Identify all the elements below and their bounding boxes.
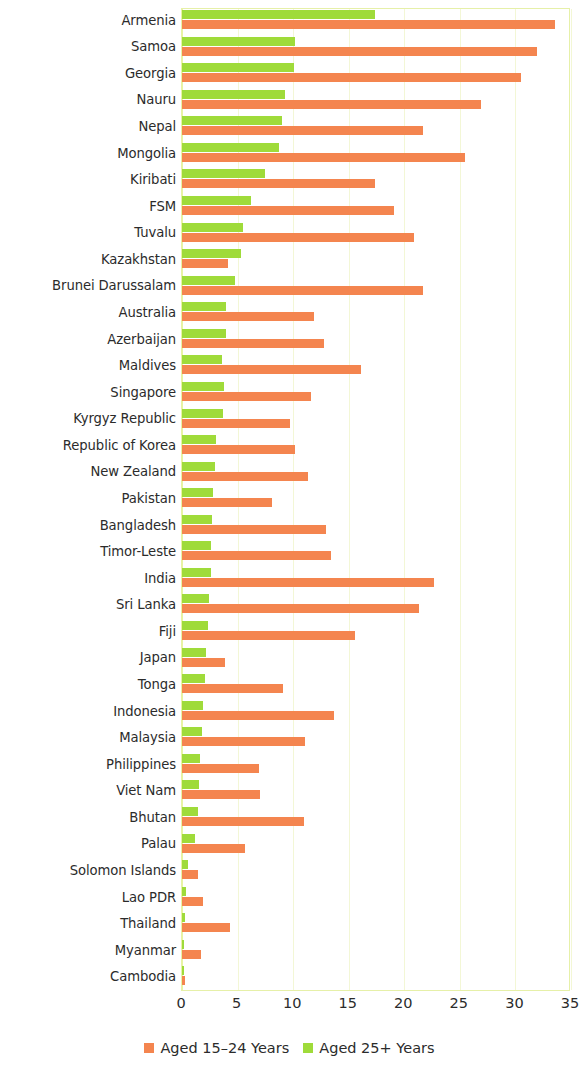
category-label: Tuvalu [0, 226, 176, 240]
bar-aged-15-24 [182, 259, 228, 268]
bar-aged-15-24 [182, 126, 423, 135]
bar-row [182, 142, 569, 169]
bar-aged-25-plus [182, 276, 235, 285]
bar-row [182, 833, 569, 860]
bar-aged-15-24 [182, 684, 283, 693]
bar-row [182, 912, 569, 939]
category-label: Viet Nam [0, 784, 176, 798]
bar-aged-25-plus [182, 780, 199, 789]
category-label: Cambodia [0, 970, 176, 984]
category-label: Maldives [0, 359, 176, 373]
bar-aged-25-plus [182, 674, 205, 683]
bar-aged-15-24 [182, 658, 225, 667]
bar-aged-25-plus [182, 966, 184, 975]
bar-aged-25-plus [182, 382, 224, 391]
bar-aged-15-24 [182, 817, 304, 826]
bar-aged-25-plus [182, 860, 188, 869]
bar-aged-15-24 [182, 286, 423, 295]
bar-row [182, 9, 569, 36]
bar-aged-15-24 [182, 153, 465, 162]
legend-label-aged-15-24: Aged 15–24 Years [160, 1040, 289, 1056]
x-tick-label-20: 20 [394, 995, 412, 1011]
bar-aged-15-24 [182, 711, 334, 720]
category-label: Lao PDR [0, 891, 176, 905]
category-label: Japan [0, 651, 176, 665]
category-label: Georgia [0, 67, 176, 81]
bar-aged-25-plus [182, 754, 200, 763]
bar-aged-15-24 [182, 870, 198, 879]
bar-aged-15-24 [182, 923, 230, 932]
category-label: Nepal [0, 120, 176, 134]
bar-row [182, 461, 569, 488]
bar-row [182, 753, 569, 780]
bar-row [182, 62, 569, 89]
category-label: Pakistan [0, 492, 176, 506]
bar-aged-25-plus [182, 727, 202, 736]
category-label: Tonga [0, 678, 176, 692]
bar-aged-15-24 [182, 100, 481, 109]
bar-aged-15-24 [182, 472, 308, 481]
category-label: Philippines [0, 758, 176, 772]
bar-aged-15-24 [182, 445, 295, 454]
category-label: Thailand [0, 917, 176, 931]
bar-row [182, 700, 569, 727]
bar-aged-15-24 [182, 392, 311, 401]
bar-aged-25-plus [182, 249, 241, 258]
bar-aged-25-plus [182, 409, 223, 418]
bar-aged-25-plus [182, 462, 215, 471]
bar-row [182, 408, 569, 435]
bar-aged-25-plus [182, 488, 213, 497]
x-tick-label-15: 15 [338, 995, 356, 1011]
bar-row [182, 540, 569, 567]
x-tick-label-30: 30 [505, 995, 523, 1011]
gridline-35 [571, 9, 572, 990]
bar-aged-25-plus [182, 913, 185, 922]
bar-aged-15-24 [182, 790, 260, 799]
bar-aged-15-24 [182, 47, 537, 56]
bar-aged-25-plus [182, 302, 226, 311]
bar-aged-15-24 [182, 976, 185, 985]
bar-aged-25-plus [182, 196, 251, 205]
bar-row [182, 301, 569, 328]
category-label: Republic of Korea [0, 439, 176, 453]
plot-area [181, 8, 570, 991]
bar-aged-15-24 [182, 525, 326, 534]
bar-aged-15-24 [182, 233, 414, 242]
x-tick-label-25: 25 [450, 995, 468, 1011]
category-label: Timor-Leste [0, 545, 176, 559]
category-label: Solomon Islands [0, 864, 176, 878]
x-tick-label-5: 5 [232, 995, 241, 1011]
category-label: Brunei Darussalam [0, 279, 176, 293]
category-label: New Zealand [0, 465, 176, 479]
category-label: Singapore [0, 386, 176, 400]
category-label: Fiji [0, 625, 176, 639]
bar-aged-15-24 [182, 179, 375, 188]
legend-swatch-icon-orange [144, 1043, 154, 1053]
bar-aged-25-plus [182, 37, 295, 46]
legend-item-aged-25-plus: Aged 25+ Years [303, 1040, 434, 1056]
category-label: Palau [0, 837, 176, 851]
x-tick-label-0: 0 [176, 995, 185, 1011]
x-axis-tick-labels: 05101520253035 [181, 995, 570, 1019]
bar-aged-15-24 [182, 20, 555, 29]
category-label: Sri Lanka [0, 598, 176, 612]
bar-row [182, 593, 569, 620]
bar-row [182, 328, 569, 355]
legend-swatch-icon-green [303, 1043, 313, 1053]
bar-row [182, 275, 569, 302]
bar-row [182, 567, 569, 594]
category-label: Mongolia [0, 147, 176, 161]
chart-legend: Aged 15–24 Years Aged 25+ Years [0, 1040, 579, 1056]
bar-aged-25-plus [182, 887, 186, 896]
bar-aged-15-24 [182, 206, 394, 215]
bar-row [182, 434, 569, 461]
bar-aged-25-plus [182, 169, 265, 178]
bar-aged-25-plus [182, 541, 211, 550]
bar-row [182, 620, 569, 647]
bar-aged-15-24 [182, 365, 361, 374]
bar-aged-15-24 [182, 551, 331, 560]
category-label: Australia [0, 306, 176, 320]
y-axis-category-labels: ArmeniaSamoaGeorgiaNauruNepalMongoliaKir… [0, 8, 176, 991]
bar-aged-15-24 [182, 844, 245, 853]
x-tick-label-10: 10 [283, 995, 301, 1011]
